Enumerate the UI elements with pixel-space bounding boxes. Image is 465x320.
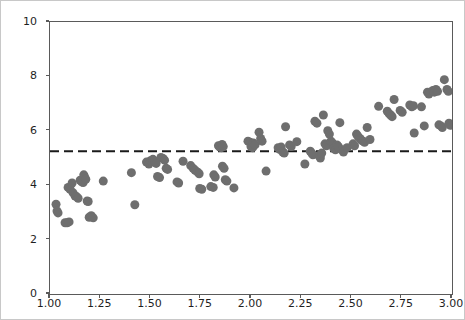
data-point [160,156,169,165]
x-tick-label: 1.75 [188,298,213,309]
data-point [130,200,139,209]
data-point [99,177,108,186]
data-point [388,112,397,121]
data-points-layer [50,22,452,294]
data-point [374,102,383,111]
y-tick-label: 0 [1,288,37,299]
data-point [417,102,426,111]
data-point [420,121,429,130]
data-point [84,197,93,206]
data-point [219,142,228,151]
scatter-plot-figure: 0246810 1.001.251.501.752.002.252.502.75… [0,0,465,320]
data-point [127,168,136,177]
data-point [398,108,407,117]
data-point [68,179,77,188]
data-point [54,208,63,217]
data-point [89,213,98,222]
data-point [365,135,374,144]
data-point [195,169,204,178]
x-tick-label: 3.00 [439,298,464,309]
data-point [312,119,321,128]
data-point [292,137,301,146]
y-tick-label: 4 [1,179,37,190]
x-tick-label: 2.00 [238,298,263,309]
data-point [262,167,271,176]
data-point [81,175,90,184]
data-point [174,179,183,188]
data-point [390,95,399,104]
y-tick-label: 2 [1,233,37,244]
y-tick-label: 6 [1,124,37,135]
data-point [433,87,442,96]
x-tick-label: 1.25 [87,298,112,309]
data-point [163,165,172,174]
data-point [258,137,267,146]
x-tick-label: 1.00 [37,298,62,309]
data-point [197,185,206,194]
x-tick-label: 2.75 [389,298,414,309]
data-point [440,75,449,84]
data-point [155,173,164,182]
data-point [222,177,231,186]
data-point [300,159,309,168]
data-point [209,183,218,192]
data-point [179,157,188,166]
data-point [220,164,229,173]
data-point [410,128,419,137]
data-point [281,122,290,131]
data-point [350,141,359,150]
data-point [335,118,344,127]
data-point [211,173,220,182]
data-point [280,149,289,158]
x-tick-label: 2.50 [338,298,363,309]
data-point [363,123,372,132]
y-tick-label: 10 [1,16,37,27]
data-point [319,111,328,120]
x-tick-label: 1.50 [137,298,162,309]
data-point [74,194,83,203]
plot-area [49,21,453,295]
y-tick-label: 8 [1,70,37,81]
x-tick-label: 2.25 [288,298,313,309]
data-point [409,101,418,110]
data-point [229,183,238,192]
data-point [65,217,74,226]
